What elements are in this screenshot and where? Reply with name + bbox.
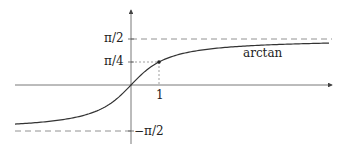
- arctan-diagram: π/2 π/4 −π/2 1 arctan: [0, 0, 344, 150]
- label-pi-over-2: π/2: [104, 32, 124, 44]
- label-neg-pi-over-2: −π/2: [134, 125, 164, 137]
- label-arctan: arctan: [243, 47, 282, 59]
- point-1-pi-over-4: [157, 60, 161, 64]
- label-pi-over-4: π/4: [104, 55, 124, 67]
- label-x-one: 1: [156, 89, 164, 101]
- plot-canvas: [0, 0, 344, 150]
